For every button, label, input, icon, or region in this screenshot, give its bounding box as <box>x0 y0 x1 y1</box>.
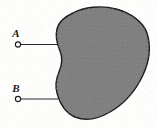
region-shading-highlight <box>56 7 149 119</box>
point-label-a: A <box>11 27 19 39</box>
point-marker-b <box>15 96 20 101</box>
figure-canvas: A B <box>0 0 157 128</box>
region-diagram-svg: A B <box>0 0 157 128</box>
point-label-b: B <box>11 82 19 94</box>
point-marker-a <box>15 42 20 47</box>
